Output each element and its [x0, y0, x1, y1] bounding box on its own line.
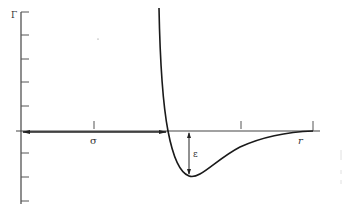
r-label: r	[298, 135, 304, 146]
speck	[97, 38, 98, 39]
y-axis-label: Γ	[11, 10, 17, 20]
epsilon-label: ε	[193, 149, 198, 159]
epsilon-arrow	[187, 132, 191, 175]
y-axis	[21, 12, 29, 204]
lennard-jones-diagram: Γ σ ε r	[0, 0, 346, 211]
sigma-label: σ	[90, 135, 97, 146]
potential-curve	[159, 8, 313, 177]
